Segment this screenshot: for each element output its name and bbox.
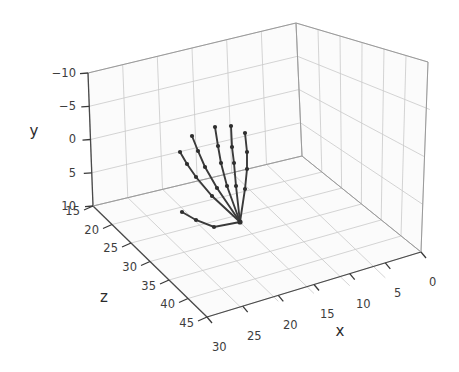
z-tick-label: 40 (160, 297, 175, 311)
joint-marker (190, 134, 194, 138)
joint-marker (225, 184, 229, 188)
joint-marker (196, 149, 200, 153)
joint-marker (213, 125, 217, 129)
joint-marker (232, 161, 236, 165)
z-tick-label: 25 (103, 241, 118, 255)
joint-marker (245, 150, 249, 154)
x-tick-label: 0 (429, 275, 436, 289)
z-tick-label: 15 (65, 204, 80, 218)
joint-marker (212, 225, 216, 229)
joint-marker (237, 219, 242, 224)
joint-marker (229, 124, 233, 128)
y-tick-label: 0 (69, 132, 76, 146)
joint-marker (243, 131, 247, 135)
joint-marker (245, 167, 249, 171)
z-tick-label: 30 (122, 260, 137, 274)
z-axis-title: z (100, 288, 108, 306)
y-tick-label: 5 (69, 166, 76, 180)
joint-marker (194, 175, 198, 179)
plot-3d-axes: −10 −5 0 5 10 y 15 20 25 30 35 40 45 z (0, 0, 459, 372)
z-tick-label: 35 (141, 279, 156, 293)
x-tick-label: 20 (283, 318, 298, 332)
x-tick-label: 25 (247, 329, 262, 343)
z-tick-label: 45 (179, 316, 194, 330)
x-axis-title: x (336, 322, 345, 340)
joint-marker (180, 210, 184, 214)
joint-marker (219, 161, 223, 165)
y-tick-label: −10 (52, 66, 76, 80)
x-tick-label: 30 (212, 340, 227, 354)
y-axis-title: y (30, 122, 39, 140)
x-tick-label: 5 (394, 286, 401, 300)
joint-marker (203, 165, 207, 169)
joint-marker (216, 144, 220, 148)
y-tick-label: −5 (59, 99, 76, 113)
joint-marker (243, 187, 247, 191)
joint-marker (215, 186, 219, 190)
y-axis-tick-labels: −10 −5 0 5 10 (52, 66, 76, 213)
joint-marker (230, 145, 234, 149)
joint-marker (178, 150, 182, 154)
x-tick-label: 10 (356, 297, 371, 311)
z-tick-label: 20 (84, 223, 99, 237)
x-tick-label: 15 (320, 307, 335, 321)
joint-marker (185, 162, 189, 166)
joint-marker (234, 184, 238, 188)
figure-canvas: −10 −5 0 5 10 y 15 20 25 30 35 40 45 z (0, 0, 459, 372)
joint-marker (194, 218, 198, 222)
joint-marker (210, 194, 214, 198)
